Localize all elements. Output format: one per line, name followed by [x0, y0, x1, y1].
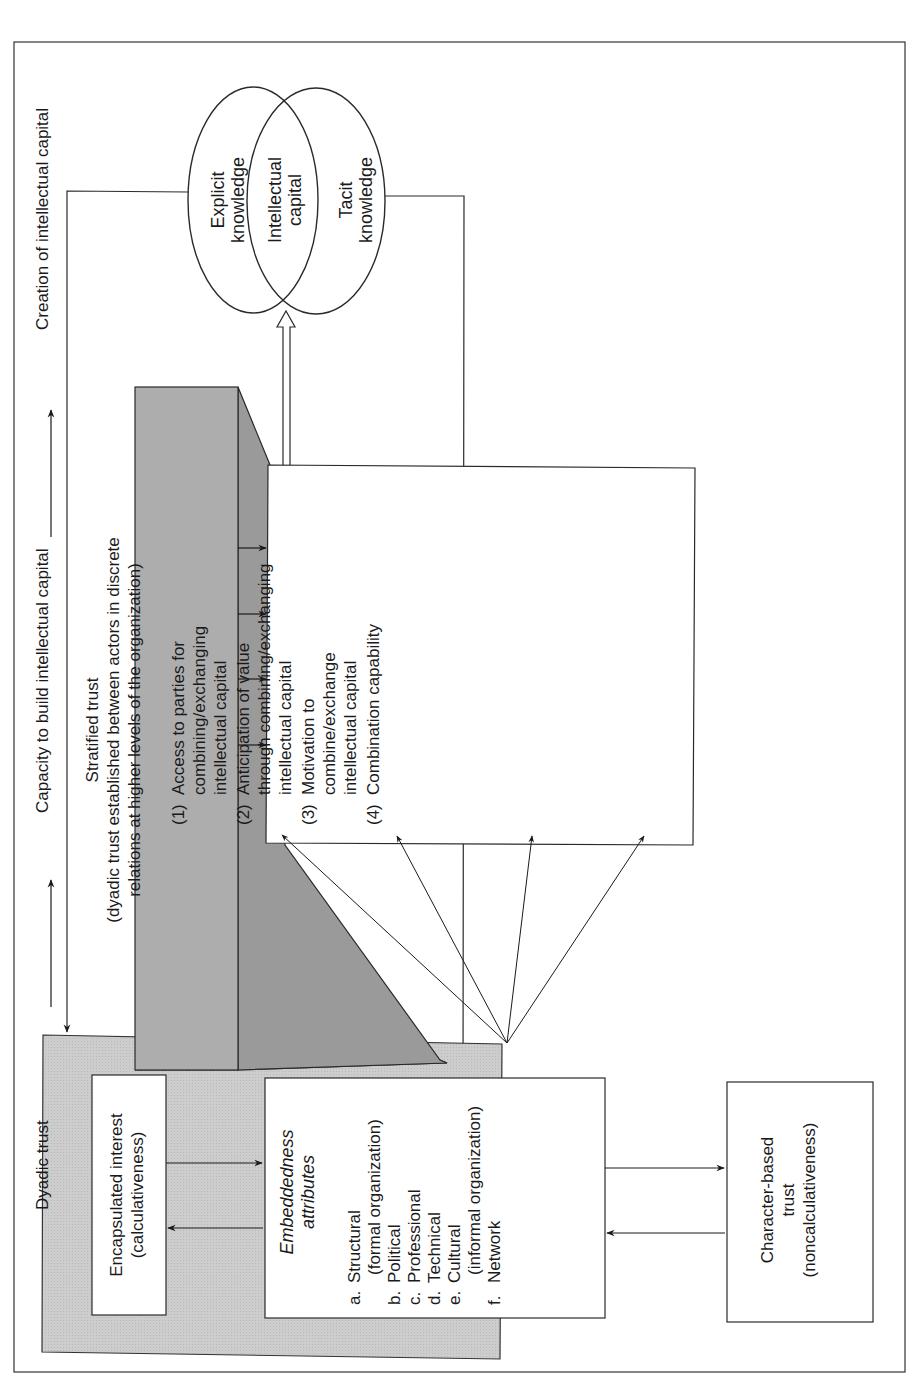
factor-2-num: (2)	[233, 795, 254, 825]
encapsulated-interest-label: Encapsulated interest (calculativeness)	[106, 1085, 148, 1305]
factor-4: (4)Combination capability	[363, 495, 384, 825]
factor-3-line3: intellectual capital	[340, 495, 361, 825]
axis-label-capacity: Capacity to build intellectual capital	[32, 493, 53, 813]
attr-d-letter: d.	[425, 1283, 445, 1305]
attr-a-letter: a.	[345, 1283, 365, 1305]
attr-b-letter: b.	[385, 1283, 405, 1305]
attr-b-label: Political	[385, 1224, 405, 1283]
factor-2: (2)Anticipation of value through combini…	[233, 495, 296, 825]
attr-a-label: Structural	[345, 1210, 365, 1283]
factor-2-line3: intellectual capital	[275, 495, 296, 825]
venn-label-tacit: Tacit knowledge	[336, 155, 376, 245]
attr-f-letter: f.	[485, 1283, 505, 1305]
factor-3-num: (3)	[298, 795, 319, 825]
encapsulated-line1: Encapsulated interest	[106, 1085, 127, 1305]
character-line1: Character-based	[757, 1090, 778, 1310]
stratified-trust-line1: (dyadic trust established between actors…	[103, 440, 124, 1020]
factor-1-num: (1)	[168, 795, 189, 825]
venn-ic-line1: Intellectual	[265, 155, 285, 245]
factor-1-line1: Access to parties for	[168, 641, 189, 795]
stratified-trust-title: Stratified trust	[82, 440, 103, 1020]
stratified-trust-label: Stratified trust (dyadic trust establish…	[82, 440, 145, 1020]
factor-2-line1: Anticipation of value	[233, 643, 254, 795]
character-line3: (noncalculativeness)	[799, 1090, 820, 1310]
factor-2-line2: through combining/exchanging	[254, 495, 275, 825]
stratified-trust-line2: relations at higher levels of the organi…	[124, 440, 145, 1020]
attr-e-label: Cultural	[445, 1224, 465, 1283]
hollow-arrow	[277, 311, 295, 466]
attr-c-label: Professional	[405, 1189, 425, 1283]
venn-label-explicit: Explicit knowledge	[208, 155, 248, 245]
factor-1-line2: combining/exchanging	[189, 495, 210, 825]
attr-e-letter: e.	[445, 1283, 465, 1305]
attr-e-sub: (informal organization)	[465, 1085, 485, 1305]
attr-c-letter: c.	[405, 1283, 425, 1305]
venn-label-intellectual-capital: Intellectual capital	[265, 155, 305, 245]
factor-3: (3)Motivation to combine/exchange intell…	[298, 495, 361, 825]
attr-f-label: Network	[485, 1221, 505, 1283]
factor-1-line3: intellectual capital	[210, 495, 231, 825]
venn-explicit-line2: knowledge	[228, 155, 248, 245]
venn-ic-line2: capital	[285, 155, 305, 245]
figure-stage: Creation of intellectual capital Capacit…	[0, 0, 911, 1385]
venn-tacit-line1: Tacit	[336, 155, 356, 245]
attr-a-sub: (formal organization)	[365, 1085, 385, 1305]
factor-4-num: (4)	[363, 795, 384, 825]
axis-label-dyadic: Dyadic trust	[32, 1090, 53, 1210]
venn-explicit-line1: Explicit	[208, 155, 228, 245]
axis-label-creation: Creation of intellectual capital	[32, 30, 53, 330]
character-line2: trust	[778, 1090, 799, 1310]
embeddedness-attribute-list: a.Structural (formal organization) b.Pol…	[345, 1085, 505, 1305]
embeddedness-title-line1: Embeddedness	[277, 1082, 298, 1302]
factor-3-line1: Motivation to	[298, 699, 319, 795]
encapsulated-line2: (calculativeness)	[127, 1085, 148, 1305]
factor-4-line1: Combination capability	[363, 624, 384, 795]
factor-1: (1)Access to parties for combining/excha…	[168, 495, 231, 825]
attr-d-label: Technical	[425, 1212, 445, 1283]
embeddedness-title-line2: attributes	[298, 1082, 319, 1302]
embeddedness-label: Embeddedness attributes	[277, 1082, 319, 1302]
venn-tacit-line2: knowledge	[356, 155, 376, 245]
factor-3-line2: combine/exchange	[319, 495, 340, 825]
character-trust-label: Character-based trust (noncalculativenes…	[757, 1090, 820, 1310]
